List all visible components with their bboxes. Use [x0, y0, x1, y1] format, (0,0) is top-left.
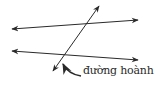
transversal-line: [53, 6, 99, 71]
pointer-arrow-icon: [63, 64, 81, 76]
transversal-label: đường hoành: [83, 64, 154, 77]
top-line: [12, 20, 138, 29]
bottom-line: [12, 51, 138, 60]
